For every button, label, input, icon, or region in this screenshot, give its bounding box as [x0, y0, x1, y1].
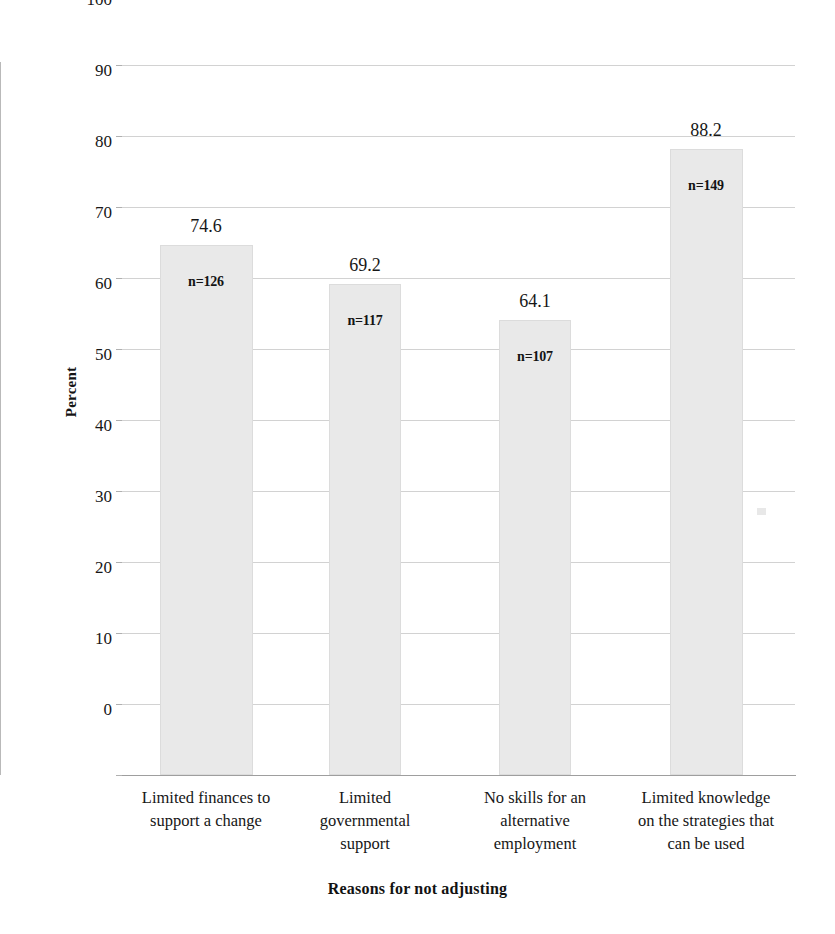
x-category-label-line: on the strategies that	[621, 809, 791, 832]
y-tick-label-0: 0	[58, 701, 112, 718]
y-tick-mark-10	[116, 704, 122, 705]
x-category-label-line: Limited finances to	[115, 786, 297, 809]
bar-4[interactable]: n=149	[670, 149, 743, 775]
plot-area: n=12674.6n=11769.2n=10764.1n=14988.2	[122, 65, 795, 775]
bar-value-label-1: 74.6	[156, 217, 256, 235]
x-category-label-line: alternative	[459, 809, 611, 832]
x-category-label-1: Limited finances tosupport a change	[115, 786, 297, 832]
x-category-label-line: governmental	[290, 809, 440, 832]
scan-artifact	[757, 508, 766, 515]
bar-value-label-4: 88.2	[656, 121, 756, 139]
y-tick-label-50: 50	[58, 346, 112, 363]
x-category-label-line: support	[290, 832, 440, 855]
bar-value-label-3: 64.1	[485, 292, 585, 310]
y-tick-mark-40	[116, 491, 122, 492]
x-category-label-line: employment	[459, 832, 611, 855]
x-category-label-2: Limitedgovernmentalsupport	[290, 786, 440, 855]
gridline-100	[122, 65, 795, 66]
bar-3[interactable]: n=107	[499, 320, 571, 775]
y-tick-label-10: 10	[58, 630, 112, 647]
y-tick-label-100: 100	[58, 0, 112, 8]
x-category-label-4: Limited knowledgeon the strategies thatc…	[621, 786, 791, 855]
y-tick-mark-90	[116, 136, 122, 137]
y-tick-label-30: 30	[58, 488, 112, 505]
y-axis-tick-labels: 1009080706050403020100	[52, 0, 112, 710]
y-tick-mark-20	[116, 633, 122, 634]
y-tick-mark-50	[116, 420, 122, 421]
x-axis-line	[122, 775, 796, 776]
y-tick-mark-60	[116, 349, 122, 350]
bar-count-label-1: n=126	[161, 274, 252, 290]
y-tick-label-60: 60	[58, 275, 112, 292]
bar-count-label-2: n=117	[330, 313, 400, 329]
x-category-label-line: support a change	[115, 809, 297, 832]
bar-count-label-4: n=149	[671, 178, 742, 194]
y-tick-mark-80	[116, 207, 122, 208]
x-category-label-line: Limited knowledge	[621, 786, 791, 809]
y-tick-mark-70	[116, 278, 122, 279]
y-tick-label-90: 90	[58, 62, 112, 79]
x-category-label-3: No skills for analternativeemployment	[459, 786, 611, 855]
bar-1[interactable]: n=126	[160, 245, 253, 775]
y-axis-line	[0, 62, 1, 775]
x-category-label-line: can be used	[621, 832, 791, 855]
y-tick-label-40: 40	[58, 417, 112, 434]
bar-2[interactable]: n=117	[329, 284, 401, 775]
x-category-label-line: No skills for an	[459, 786, 611, 809]
bar-count-label-3: n=107	[500, 349, 570, 365]
y-tick-label-70: 70	[58, 204, 112, 221]
x-axis-title: Reasons for not adjusting	[0, 880, 835, 898]
bar-chart: Percent 1009080706050403020100 n=12674.6…	[0, 0, 835, 934]
bar-value-label-2: 69.2	[315, 256, 415, 274]
y-tick-mark-30	[116, 562, 122, 563]
y-tick-mark-100	[116, 65, 122, 66]
y-tick-label-80: 80	[58, 133, 112, 150]
x-category-label-line: Limited	[290, 786, 440, 809]
y-tick-label-20: 20	[58, 559, 112, 576]
